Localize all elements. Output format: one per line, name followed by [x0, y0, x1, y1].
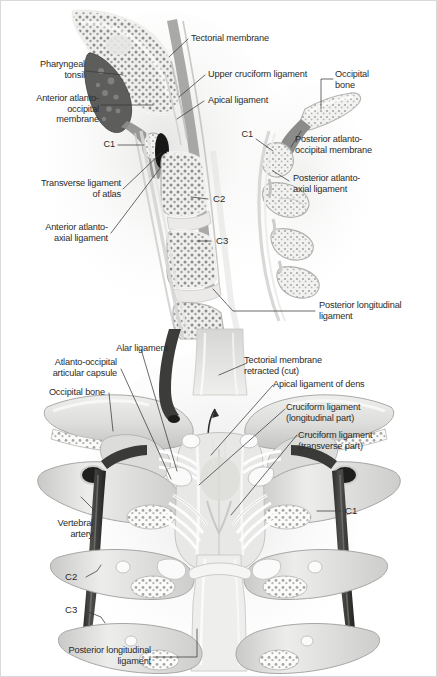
label-posterior-longitudinal-ligament-bottom: Posterior longitudinal ligament — [7, 645, 151, 666]
label-cruciform-ligament-longitudinal: Cruciform ligament (longitudinal part) — [286, 402, 426, 423]
label-posterior-longitudinal-ligament-top: Posterior longitudinal ligament — [319, 300, 437, 321]
label-tectorial-membrane-retracted: Tectorial membrane retracted (cut) — [244, 355, 374, 376]
label-vertebral-artery: Vertebral artery — [7, 518, 93, 539]
label-posterior-atlanto-axial-ligament: Posterior atlanto- axial ligament — [293, 173, 423, 194]
label-transverse-ligament-of-atlas: Transverse ligament of atlas — [1, 178, 121, 199]
label-c3-level: C3 — [216, 236, 228, 246]
anatomy-figure: Pharyngeal tonsil Anterior atlanto- occi… — [0, 0, 437, 677]
label-tectorial-membrane: Tectorial membrane — [191, 33, 321, 44]
label-c1-bottom: C1 — [345, 506, 357, 516]
panel-posterior-view: Alar ligament Atlanto-occipital articula… — [1, 319, 437, 677]
label-c1-left: C1 — [1, 139, 115, 150]
label-apical-ligament-of-dens: Apical ligament of dens — [273, 379, 423, 390]
label-atlanto-occipital-articular-capsule: Atlanto-occipital articular capsule — [7, 357, 117, 378]
label-anterior-atlanto-occipital-membrane: Anterior atlanto- occipital membrane — [1, 93, 99, 125]
label-cruciform-ligament-transverse: Cruciform ligament (transverse part) — [298, 430, 434, 451]
label-c1-right: C1 — [215, 129, 253, 140]
label-posterior-atlanto-occipital-membrane: Posterior atlanto- occipital membrane — [295, 134, 435, 155]
label-c2-bottom: C2 — [65, 572, 77, 582]
label-pharyngeal-tonsil: Pharyngeal tonsil — [1, 59, 85, 80]
label-c3-bottom: C3 — [65, 605, 77, 615]
midsagittal-artwork — [1, 1, 437, 341]
label-c2-level: C2 — [213, 194, 225, 204]
label-anterior-atlanto-axial-ligament: Anterior atlanto- axial ligament — [1, 222, 108, 243]
panel-midsagittal-section: Pharyngeal tonsil Anterior atlanto- occi… — [1, 1, 437, 341]
label-alar-ligament: Alar ligament — [97, 343, 187, 354]
label-occipital-bone-bottom: Occipital bone — [7, 387, 105, 398]
label-apical-ligament: Apical ligament — [208, 95, 328, 106]
label-occipital-bone-top: Occipital bone — [335, 69, 405, 90]
label-upper-cruciform-ligament: Upper cruciform ligament — [208, 69, 348, 80]
